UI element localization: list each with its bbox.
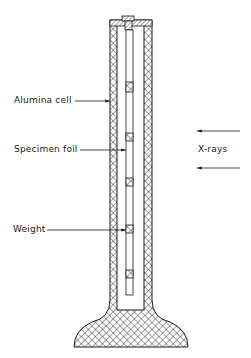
alumina-cell-label: Alumina cell <box>14 95 72 105</box>
xrays-label: X-rays <box>198 144 227 154</box>
alumina-cell-diagram <box>0 0 251 358</box>
weight-label: Weight <box>13 224 46 234</box>
specimen-foil-label: Specimen foil <box>14 144 78 154</box>
specimen-foil <box>126 30 133 295</box>
